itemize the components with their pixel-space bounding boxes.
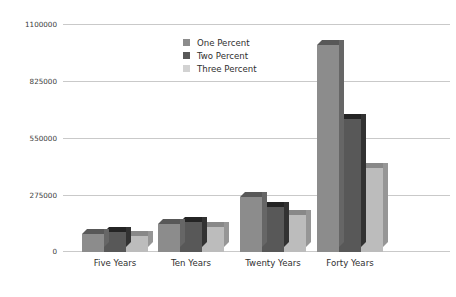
bar-side-face bbox=[361, 114, 366, 247]
x-tick-label: Forty Years bbox=[326, 258, 373, 268]
y-tick-label: 275000 bbox=[0, 191, 57, 200]
y-tick-label: 825000 bbox=[0, 77, 57, 86]
bar-side-face bbox=[383, 163, 388, 247]
x-tick-label: Ten Years bbox=[171, 258, 211, 268]
chart-legend: One Percent Two Percent Three Percent bbox=[183, 37, 257, 76]
legend-label-three-percent: Three Percent bbox=[197, 64, 257, 74]
bar-top-face bbox=[240, 192, 262, 197]
bar-side-face bbox=[224, 222, 229, 247]
legend-label-two-percent: Two Percent bbox=[197, 51, 248, 61]
x-tick-label: Twenty Years bbox=[245, 258, 300, 268]
legend-label-one-percent: One Percent bbox=[197, 38, 250, 48]
bar-side-face bbox=[262, 192, 267, 247]
bar-top-face bbox=[317, 40, 339, 45]
legend-swatch-three-percent bbox=[183, 65, 190, 72]
legend-item-one-percent: One Percent bbox=[183, 37, 257, 49]
bar-face bbox=[317, 45, 339, 252]
bar-face bbox=[240, 197, 262, 252]
legend-item-two-percent: Two Percent bbox=[183, 50, 257, 62]
bar-group bbox=[82, 24, 153, 252]
bar bbox=[158, 224, 180, 252]
bar-side-face bbox=[306, 210, 311, 247]
y-tick-label: 550000 bbox=[0, 134, 57, 143]
bar-top-face bbox=[158, 219, 180, 224]
x-tick-label: Five Years bbox=[94, 258, 136, 268]
legend-swatch-two-percent bbox=[183, 52, 190, 59]
bar-chart: 1100000 825000 550000 275000 0 Five Year… bbox=[0, 0, 456, 297]
legend-item-three-percent: Three Percent bbox=[183, 63, 257, 75]
bar-face bbox=[158, 224, 180, 252]
y-tick-label: 0 bbox=[0, 247, 57, 256]
bar-side-face bbox=[339, 40, 344, 247]
bar bbox=[82, 234, 104, 252]
y-tick-label: 1100000 bbox=[0, 20, 57, 29]
bar-group bbox=[317, 24, 388, 252]
bar-side-face bbox=[284, 202, 289, 247]
bar bbox=[240, 197, 262, 252]
bar-top-face bbox=[82, 229, 104, 234]
legend-swatch-one-percent bbox=[183, 39, 190, 46]
bar-side-face bbox=[148, 231, 153, 247]
bar bbox=[317, 45, 339, 252]
bar-side-face bbox=[202, 217, 207, 247]
bar-face bbox=[82, 234, 104, 252]
